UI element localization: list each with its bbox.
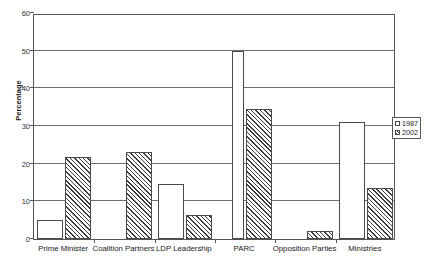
gridline xyxy=(34,50,394,51)
y-tick-mark xyxy=(30,87,34,88)
bar-2002-coalition-partners xyxy=(126,152,152,239)
x-tick-mark xyxy=(155,239,156,243)
x-axis-label: Ministries xyxy=(348,244,381,253)
bar-1987-ldp-leadership xyxy=(158,184,184,239)
y-tick-mark xyxy=(30,12,34,13)
x-axis-label: Opposition Parties xyxy=(273,244,337,253)
x-tick-mark xyxy=(275,239,276,243)
plot-area xyxy=(33,14,395,240)
y-tick-label: 0 xyxy=(12,236,30,244)
x-tick-mark xyxy=(336,239,337,243)
bar-1987-ministries xyxy=(339,122,365,239)
bar-2002-opposition-parties xyxy=(307,231,333,239)
x-axis-label: LDP Leadership xyxy=(156,244,212,253)
y-tick-label: 40 xyxy=(12,85,30,93)
bar-2002-ldp-leadership xyxy=(186,215,212,239)
x-axis-label: Coalition Partners xyxy=(93,244,155,253)
x-axis-label: Prime Minister xyxy=(38,244,88,253)
y-tick-mark xyxy=(30,163,34,164)
x-tick-mark xyxy=(94,239,95,243)
legend-swatch-1987 xyxy=(395,121,400,126)
y-tick-mark xyxy=(30,50,34,51)
bar-2002-ministries xyxy=(367,188,393,239)
y-tick-mark xyxy=(30,125,34,126)
y-tick-label: 20 xyxy=(12,161,30,169)
y-tick-label: 30 xyxy=(12,123,30,131)
legend-label-1987: 1987 xyxy=(402,119,418,128)
bar-2002-parc xyxy=(246,109,272,239)
bar-chart: Percentage 0102030405060 Prime MinisterC… xyxy=(0,0,432,273)
bar-2002-prime-minister xyxy=(65,157,91,239)
y-tick-label: 60 xyxy=(12,10,30,18)
bar-1987-parc xyxy=(232,51,244,239)
y-tick-mark xyxy=(30,238,34,239)
y-tick-mark xyxy=(30,200,34,201)
y-tick-label: 10 xyxy=(12,198,30,206)
x-tick-mark xyxy=(215,239,216,243)
legend-label-2002: 2002 xyxy=(402,128,418,137)
chart-legend: 1987 2002 xyxy=(392,117,421,139)
y-tick-label: 50 xyxy=(12,48,30,56)
legend-item-1987: 1987 xyxy=(395,119,418,128)
bar-1987-prime-minister xyxy=(37,220,63,239)
x-axis-label: PARC xyxy=(234,244,255,253)
legend-item-2002: 2002 xyxy=(395,128,418,137)
gridline xyxy=(34,87,394,88)
legend-swatch-2002 xyxy=(395,130,400,135)
